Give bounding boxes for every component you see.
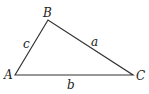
triangle-diagram: A B C a b c [0,0,149,94]
triangle-abc [15,20,133,75]
vertex-label-b: B [42,6,52,20]
vertex-label-c: C [136,69,145,83]
side-label-a: a [91,35,98,49]
vertex-label-a: A [3,68,13,82]
side-label-c: c [23,37,30,51]
side-label-b: b [67,78,75,92]
